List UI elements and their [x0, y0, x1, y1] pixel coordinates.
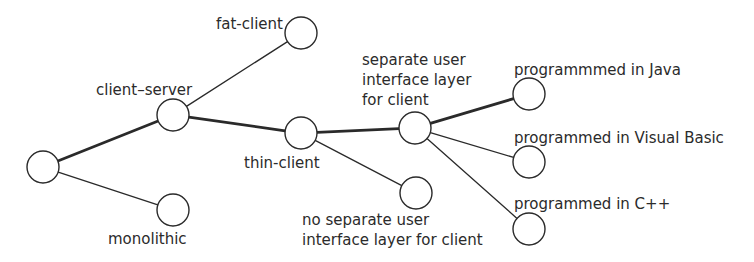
- edge-thin-client-to-separate-ui: [317, 129, 399, 133]
- label-line: for client: [362, 91, 429, 109]
- edge-separate-ui-to-java: [430, 99, 513, 124]
- edge-root-to-client-server: [58, 121, 158, 161]
- label-client-server: client–server: [96, 81, 193, 99]
- label-cpp: programmed in C++: [514, 195, 670, 213]
- label-visual-basic: programmed in Visual Basic: [514, 129, 724, 147]
- edge-client-server-to-thin-client: [189, 117, 285, 131]
- nodes: [27, 17, 545, 245]
- label-line: programmed in C++: [514, 195, 670, 213]
- label-line: interface layer: [362, 71, 472, 89]
- node-separate-ui: [399, 112, 431, 144]
- node-monolithic: [157, 194, 189, 226]
- node-cpp: [513, 213, 545, 245]
- label-line: monolithic: [108, 230, 187, 248]
- label-line: programmed in Visual Basic: [514, 129, 724, 147]
- architecture-decision-tree: client–servermonolithicfat-clientthin-cl…: [0, 0, 754, 262]
- node-fat-client: [285, 17, 317, 49]
- edge-root-to-monolithic: [58, 172, 158, 205]
- node-no-separate-ui: [400, 177, 432, 209]
- edge-separate-ui-to-visual-basic: [430, 133, 513, 158]
- edge-client-server-to-fat-client: [186, 42, 287, 107]
- edge-thin-client-to-no-separate-ui: [315, 140, 402, 185]
- label-monolithic: monolithic: [108, 230, 187, 248]
- label-thin-client: thin-client: [244, 154, 320, 172]
- label-no-separate-ui: no separate userinterface layer for clie…: [302, 211, 483, 249]
- node-client-server: [157, 99, 189, 131]
- node-visual-basic: [513, 146, 545, 178]
- label-line: client–server: [96, 81, 193, 99]
- label-line: programmmed in Java: [514, 61, 681, 79]
- label-line: fat-client: [216, 15, 283, 33]
- label-separate-ui: separate userinterface layerfor client: [362, 51, 472, 109]
- node-root: [27, 151, 59, 183]
- node-thin-client: [285, 117, 317, 149]
- edge-separate-ui-to-cpp: [427, 139, 517, 219]
- label-java: programmmed in Java: [514, 61, 681, 79]
- node-java: [513, 78, 545, 110]
- label-line: thin-client: [244, 154, 320, 172]
- label-line: interface layer for client: [302, 231, 483, 249]
- label-line: separate user: [362, 51, 467, 69]
- label-fat-client: fat-client: [216, 15, 283, 33]
- label-line: no separate user: [302, 211, 430, 229]
